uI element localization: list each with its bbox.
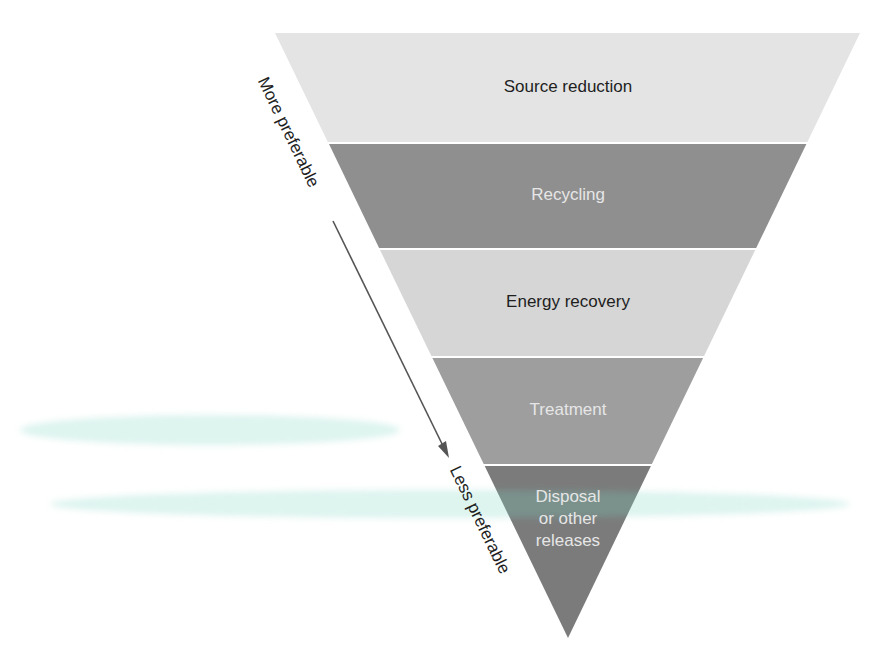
level-treatment-label: Treatment bbox=[530, 399, 607, 421]
disposal-line-2: or other bbox=[535, 508, 600, 530]
level-source-reduction-label: Source reduction bbox=[504, 76, 633, 98]
level-disposal-label: Disposal or other releases bbox=[535, 486, 600, 552]
level-recycling-label: Recycling bbox=[531, 184, 605, 206]
hierarchy-pyramid bbox=[0, 0, 880, 671]
scan-smudge bbox=[20, 415, 400, 445]
arrow-head-icon bbox=[438, 441, 449, 458]
disposal-line-1: Disposal bbox=[535, 486, 600, 508]
disposal-line-3: releases bbox=[535, 530, 600, 552]
scan-smudge bbox=[50, 490, 850, 518]
level-energy-recovery-label: Energy recovery bbox=[506, 291, 630, 313]
